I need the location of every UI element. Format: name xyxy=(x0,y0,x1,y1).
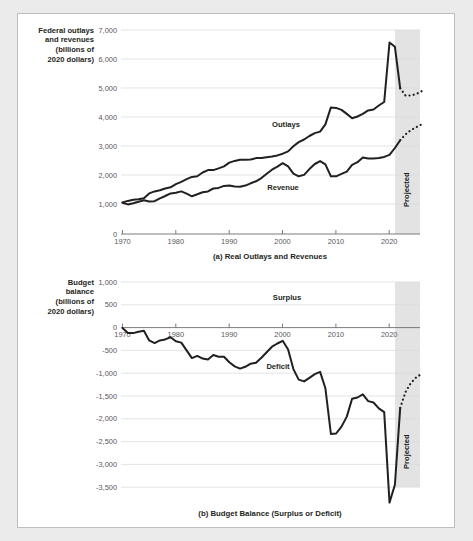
x-axis-tickmarks-b xyxy=(123,324,390,328)
y-tick-b-3: -500 xyxy=(102,346,117,355)
x-tick-b-4: 2010 xyxy=(328,330,344,339)
y-axis-title-a-line-1: and revenues xyxy=(45,35,94,44)
y-axis-ticks-b: 1,000 500 0 -500 -1,000 -1,500 -2,000 -2… xyxy=(96,278,117,492)
x-tick-a-2: 1990 xyxy=(221,237,237,246)
series-label-outlays: Outlays xyxy=(272,120,300,129)
y-axis-title-a-line-0: Federal outlays xyxy=(38,26,94,35)
y-tick-b-6: -2,000 xyxy=(96,414,117,423)
series-label-revenue: Revenue xyxy=(267,183,299,192)
region-label-surplus: Surplus xyxy=(273,293,301,302)
figure-card: 7,000 6,000 5,000 4,000 3,000 2,000 1,00… xyxy=(17,13,455,528)
y-tick-b-8: -3,000 xyxy=(96,460,117,469)
gridlines-b xyxy=(121,282,420,487)
y-axis-title-b-line-0: Budget xyxy=(68,278,95,287)
x-tick-a-1: 1980 xyxy=(168,237,184,246)
y-tick-a-4: 3,000 xyxy=(99,142,118,151)
region-label-deficit: Deficit xyxy=(266,362,290,371)
y-tick-b-4: -1,000 xyxy=(96,369,117,378)
chart-panel-b: 1,000 500 0 -500 -1,000 -1,500 -2,000 -2… xyxy=(18,264,454,529)
x-axis-ticks-a: 1970 1980 1990 2000 2010 2020 xyxy=(114,237,397,246)
y-axis-title-a: Federal outlays and revenues (billions o… xyxy=(38,26,94,64)
x-tick-b-5: 2020 xyxy=(381,330,397,339)
y-axis-title-b-line-3: 2020 dollars) xyxy=(48,307,95,316)
y-tick-a-6: 1,000 xyxy=(99,200,118,209)
page-background: 7,000 6,000 5,000 4,000 3,000 2,000 1,00… xyxy=(0,0,473,541)
x-tick-b-2: 1990 xyxy=(221,330,237,339)
x-tick-a-0: 1970 xyxy=(114,237,130,246)
x-tick-a-5: 2020 xyxy=(381,237,397,246)
series-line-budget-balance xyxy=(123,328,401,503)
y-tick-a-1: 6,000 xyxy=(99,55,118,64)
x-axis-ticks-b: 1970 1980 1990 2000 2010 2020 xyxy=(114,330,397,339)
x-tick-a-3: 2000 xyxy=(274,237,290,246)
projected-label-a: Projected xyxy=(402,172,411,207)
y-axis-ticks-a: 7,000 6,000 5,000 4,000 3,000 2,000 1,00… xyxy=(99,26,118,239)
y-tick-b-0: 1,000 xyxy=(99,278,118,287)
caption-panel-b: (b) Budget Balance (Surplus or Deficit) xyxy=(198,509,342,518)
y-tick-b-5: -1,500 xyxy=(96,392,117,401)
x-axis-tickmarks-a xyxy=(123,230,390,234)
gridlines-a xyxy=(121,30,420,204)
y-axis-title-b-line-1: balance xyxy=(66,287,94,296)
series-line-revenue xyxy=(123,140,401,204)
y-tick-a-5: 2,000 xyxy=(99,171,118,180)
y-tick-b-1: 500 xyxy=(105,300,117,309)
x-tick-b-0: 1970 xyxy=(114,330,130,339)
y-tick-b-7: -2,500 xyxy=(96,437,117,446)
caption-panel-a: (a) Real Outlays and Revenues xyxy=(213,252,328,261)
chart-panel-a: 7,000 6,000 5,000 4,000 3,000 2,000 1,00… xyxy=(18,14,454,264)
y-axis-title-a-line-3: 2020 dollars) xyxy=(48,55,95,64)
y-tick-a-3: 4,000 xyxy=(99,113,118,122)
y-tick-b-9: -3,500 xyxy=(96,483,117,492)
y-axis-title-b-line-2: (billions of xyxy=(56,297,95,306)
x-tick-b-3: 2000 xyxy=(274,330,290,339)
y-axis-title-a-line-2: (billions of xyxy=(56,45,95,54)
x-tick-a-4: 2010 xyxy=(328,237,344,246)
y-tick-a-0: 7,000 xyxy=(99,26,118,35)
projected-label-b: Projected xyxy=(402,434,411,469)
y-axis-title-b: Budget balance (billions of 2020 dollars… xyxy=(48,278,95,316)
y-tick-a-2: 5,000 xyxy=(99,84,118,93)
